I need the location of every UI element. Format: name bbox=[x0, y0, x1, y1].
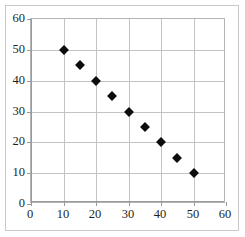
y-axis-tick-labels: 0102030405060 bbox=[6, 18, 25, 203]
x-axis-tick bbox=[226, 202, 227, 206]
y-axis-tick-label: 10 bbox=[13, 166, 26, 179]
y-axis-line bbox=[31, 19, 32, 202]
y-axis-tick bbox=[27, 81, 31, 82]
data-point bbox=[91, 76, 101, 86]
y-axis-tick-label: 40 bbox=[13, 74, 26, 87]
x-axis-tick-label: 60 bbox=[219, 208, 232, 221]
y-axis-tick-label: 20 bbox=[13, 135, 26, 148]
x-axis-tick-label: 10 bbox=[57, 208, 70, 221]
gridline-horizontal bbox=[31, 142, 224, 143]
y-axis-tick bbox=[27, 173, 31, 174]
y-axis-tick bbox=[27, 142, 31, 143]
y-axis-tick bbox=[27, 112, 31, 113]
data-point bbox=[107, 91, 117, 101]
scatter-plot-figure: 0102030405060 0102030405060 bbox=[0, 0, 245, 237]
y-axis-tick bbox=[27, 50, 31, 51]
x-axis-tick-label: 50 bbox=[187, 208, 200, 221]
data-point bbox=[156, 137, 166, 147]
x-axis-tick-label: 20 bbox=[89, 208, 102, 221]
x-axis-tick-label: 40 bbox=[154, 208, 167, 221]
data-point bbox=[75, 60, 85, 70]
plot-area bbox=[30, 18, 225, 203]
y-axis-tick-label: 30 bbox=[13, 105, 26, 118]
y-axis-tick bbox=[27, 19, 31, 20]
y-axis-tick-label: 0 bbox=[19, 197, 25, 210]
x-axis-tick-label: 30 bbox=[122, 208, 135, 221]
gridline-vertical bbox=[96, 19, 97, 202]
x-axis-line bbox=[31, 201, 224, 202]
data-point bbox=[59, 45, 69, 55]
data-point bbox=[140, 122, 150, 132]
gridline-horizontal bbox=[31, 81, 224, 82]
y-axis-tick-label: 60 bbox=[13, 12, 26, 25]
data-point bbox=[172, 153, 182, 163]
data-point bbox=[189, 168, 199, 178]
y-axis-tick-label: 50 bbox=[13, 43, 26, 56]
x-axis-tick-labels: 0102030405060 bbox=[30, 206, 225, 224]
gridline-vertical bbox=[161, 19, 162, 202]
data-point bbox=[124, 107, 134, 117]
x-axis-tick-label: 0 bbox=[27, 208, 33, 221]
